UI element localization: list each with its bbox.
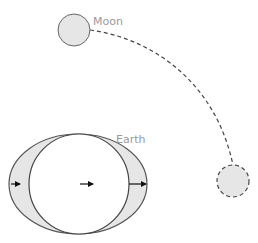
moon-label: Moon [93, 15, 123, 28]
moon [58, 14, 90, 46]
tidal-diagram: Moon Earth [0, 0, 258, 243]
earth-label: Earth [116, 133, 146, 146]
moon-later-position [217, 165, 249, 197]
earth [29, 134, 129, 234]
